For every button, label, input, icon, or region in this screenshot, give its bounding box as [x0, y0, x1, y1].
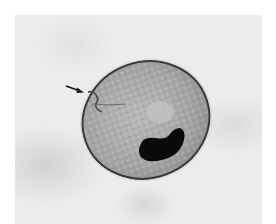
micrograph: [15, 15, 262, 224]
arrow-icon: [66, 86, 84, 93]
micrograph-svg: [15, 15, 262, 224]
cyst-cell: [63, 41, 228, 199]
